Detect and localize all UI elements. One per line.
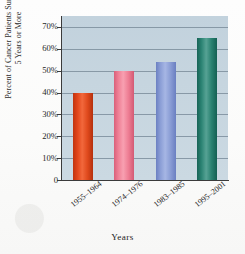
x-axis-tick-label: 1995–2001 <box>193 179 228 209</box>
y-axis-tick-mark <box>57 158 62 159</box>
y-axis-tick-mark <box>57 180 62 181</box>
plot-area <box>62 16 228 180</box>
bar-fill <box>156 62 176 180</box>
x-axis-tick-label: 1983–1985 <box>152 179 187 209</box>
y-axis-tick-mark <box>57 71 62 72</box>
bar-2 <box>114 71 134 180</box>
y-axis-tick-label: 40% <box>22 87 58 97</box>
y-axis-tick-label: 10% <box>22 153 58 163</box>
y-axis-tick-label: 30% <box>22 109 58 119</box>
gridline <box>62 27 228 28</box>
bar-fill <box>73 93 93 180</box>
bar-fill <box>197 38 217 180</box>
x-axis-tick-label: 1955–1964 <box>69 179 104 209</box>
y-axis-tick-labels: 010%20%30%40%50%60%70% <box>14 0 58 254</box>
y-axis-tick-label: 50% <box>22 65 58 75</box>
y-axis-tick-mark <box>57 27 62 28</box>
y-axis-tick-label: 60% <box>22 43 58 53</box>
bar-4 <box>197 38 217 180</box>
y-axis-tick-label: 20% <box>22 131 58 141</box>
bar-chart: Percent of Cancer Patients Surviving 5 Y… <box>0 0 245 254</box>
y-axis-tick-mark <box>57 136 62 137</box>
x-axis-line <box>61 180 229 181</box>
y-axis-tick-label: 0 <box>22 175 58 185</box>
y-axis-tick-label: 70% <box>22 21 58 31</box>
bar-fill <box>114 71 134 180</box>
y-axis-tick-mark <box>57 49 62 50</box>
bar-1 <box>73 93 93 180</box>
x-axis-title: Years <box>0 232 245 242</box>
x-axis-tick-label: 1974–1976 <box>110 179 145 209</box>
y-axis-tick-mark <box>57 93 62 94</box>
y-axis-tick-mark <box>57 114 62 115</box>
bar-3 <box>156 62 176 180</box>
